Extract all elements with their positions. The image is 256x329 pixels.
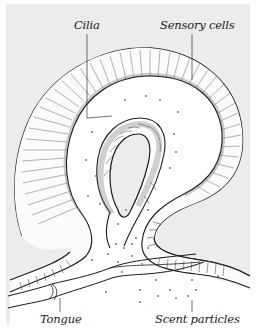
label-cilia: Cilia — [74, 18, 100, 32]
label-scent-particles: Scent particles — [155, 312, 240, 326]
olfactory-organ-illustration — [0, 0, 256, 329]
figure: Cilia Sensory cells Tongue Scent particl… — [0, 0, 256, 329]
label-sensory-cells: Sensory cells — [160, 18, 234, 32]
label-tongue: Tongue — [40, 312, 81, 326]
